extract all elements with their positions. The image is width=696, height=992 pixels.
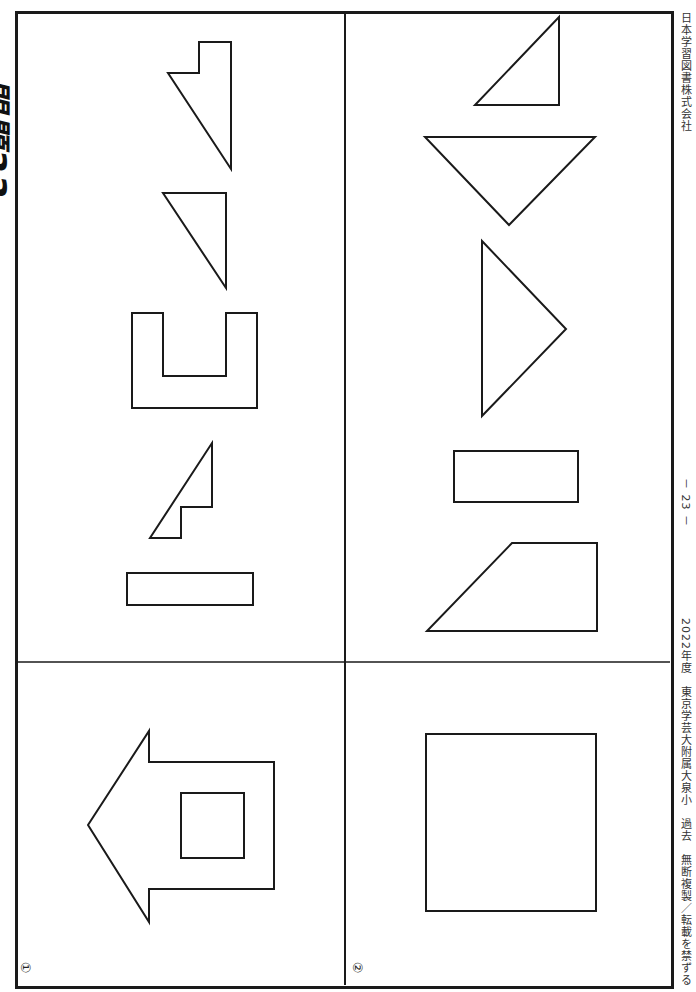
shape-pointing-triangle <box>482 241 566 416</box>
panel-label-1: ① <box>18 962 33 974</box>
shape-right-triangle-2 <box>475 17 559 105</box>
shape-inverted-triangle <box>425 137 595 225</box>
shape-notched-right-triangle <box>168 42 231 169</box>
shape-right-triangle <box>163 193 226 288</box>
page-number: － 23 － <box>677 478 693 527</box>
shape-small-notched-triangle <box>150 443 212 538</box>
panel-label-2: ② <box>350 962 365 974</box>
shape-trapezoid <box>427 543 597 631</box>
shape-inner-square <box>181 793 244 858</box>
shape-square <box>426 734 596 911</box>
worksheet-drawing <box>0 0 696 992</box>
footer-text: 2022年度 東京学芸大附属大泉小 過去 無断複製／転載を禁ずる <box>677 618 693 986</box>
shape-u <box>132 313 257 408</box>
shape-rectangle <box>454 451 578 502</box>
publisher-text: 日本学習図書株式会社 <box>677 12 693 132</box>
shape-thin-rectangle <box>127 573 253 605</box>
